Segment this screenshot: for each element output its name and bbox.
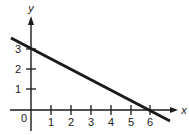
y-tick-label: 1 [15, 83, 21, 95]
x-tick-label: 2 [68, 116, 74, 128]
line-chart: 1 2 3 4 5 6 1 2 3 0 x y [0, 0, 189, 135]
x-tick-label: 4 [108, 116, 114, 128]
x-axis-label: x [180, 104, 187, 116]
x-axis-arrow-icon [170, 107, 178, 113]
origin-label: 0 [21, 112, 27, 124]
x-tick-label: 3 [88, 116, 94, 128]
x-tick-label: 1 [48, 116, 54, 128]
y-axis-arrow-icon [28, 16, 34, 25]
y-tick-label: 3 [15, 43, 21, 55]
x-tick-label: 6 [147, 116, 153, 128]
y-axis-label: y [27, 2, 35, 14]
y-tick-label: 2 [15, 63, 21, 75]
x-tick-label: 5 [128, 116, 134, 128]
